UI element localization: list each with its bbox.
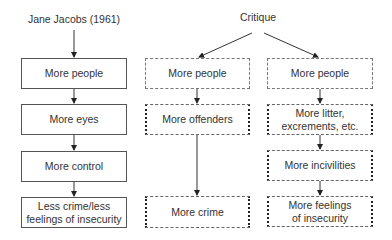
critique-incivility-more-people-box: More people: [267, 58, 373, 89]
arrow-critique-to-middle: [199, 33, 252, 57]
critique-more-litter-box: More litter, excrements, etc.: [267, 104, 373, 135]
critique-more-crime-box: More crime: [145, 196, 250, 228]
critique-more-offenders-box: More offenders: [145, 104, 250, 135]
critique-heading: Critique: [218, 11, 298, 23]
jacobs-more-people-box: More people: [21, 58, 127, 89]
jacobs-more-control-box: More control: [21, 151, 127, 182]
critique-more-incivilities-box: More incivilities: [267, 150, 373, 181]
jacobs-more-eyes-box: More eyes: [21, 104, 127, 135]
arrow-critique-to-right: [264, 33, 318, 57]
critique-more-feelings-box: More feelings of insecurity: [267, 196, 373, 227]
jane-jacobs-heading: Jane Jacobs (1961): [14, 13, 134, 25]
critique-crime-more-people-box: More people: [145, 58, 250, 89]
jacobs-less-crime-box: Less crime/less feelings of insecurity: [21, 197, 127, 228]
